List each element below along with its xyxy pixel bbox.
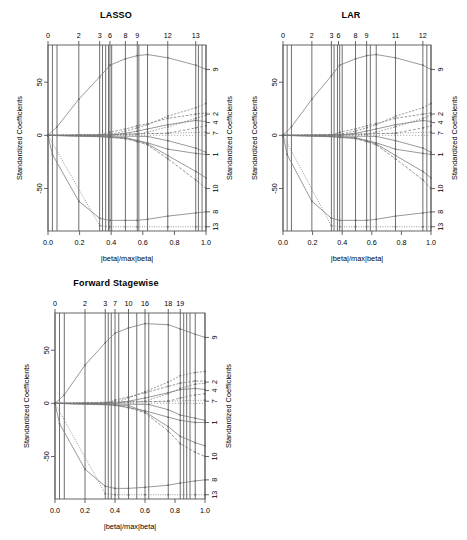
knot-marker [179, 397, 181, 399]
y-tick-label: -50 [35, 183, 44, 193]
knot-marker [125, 226, 127, 228]
knot-marker [194, 333, 196, 335]
knot-marker [422, 120, 424, 122]
coefficient-path [283, 135, 431, 220]
knot-marker [179, 388, 181, 390]
variable-index-label: 10 [436, 184, 445, 192]
knot-marker [167, 118, 169, 120]
knot-marker [128, 494, 130, 496]
panel-lasso: LASSO 0.00.20.40.60.81.0|beta|/max|beta|… [0, 0, 232, 270]
knot-marker [422, 171, 424, 173]
top-tick-label: 10 [125, 299, 133, 308]
knot-marker [339, 226, 341, 228]
knot-marker [144, 323, 146, 325]
knot-marker [422, 147, 424, 149]
x-tick-label: 1.0 [201, 238, 211, 247]
knot-marker [167, 126, 169, 128]
knot-marker [147, 143, 149, 145]
variable-index-label: 4 [210, 389, 219, 393]
variable-index-label: 7 [211, 131, 220, 135]
coefficient-path [48, 135, 206, 178]
knot-marker [375, 143, 377, 145]
coefficient-path [48, 135, 206, 220]
knot-marker [195, 179, 197, 181]
knot-marker [167, 158, 169, 160]
knot-marker [366, 127, 368, 129]
knot-marker [355, 128, 357, 130]
x-tick-label: 0.4 [106, 238, 116, 247]
knot-marker [179, 328, 181, 330]
variable-index-label: 9 [211, 67, 220, 71]
knot-marker [366, 130, 368, 132]
knot-marker [136, 127, 138, 129]
knot-marker [179, 382, 181, 384]
knot-marker [179, 482, 181, 484]
knot-marker [395, 132, 397, 134]
coefficient-path [283, 135, 431, 226]
y-axis-label: Standardized Coefficients [250, 96, 259, 180]
variable-index-label: 8 [211, 210, 220, 214]
knot-marker [375, 131, 377, 133]
knot-marker [104, 342, 106, 344]
variable-index-label: 1 [210, 420, 219, 424]
knot-marker [422, 212, 424, 214]
knot-marker [311, 200, 313, 202]
knot-marker [395, 115, 397, 117]
knot-marker [167, 494, 169, 496]
plot-area-lar: 0.00.20.40.60.81.0|beta|/max|beta|500-50… [235, 0, 467, 270]
knot-marker [109, 226, 111, 228]
x-tick-label: 0.8 [170, 506, 180, 515]
knot-marker [144, 411, 146, 413]
x-tick-label: 0.8 [396, 238, 406, 247]
coefficient-path [48, 126, 206, 136]
knot-marker [167, 386, 169, 388]
knot-marker [195, 127, 197, 129]
knot-marker [64, 394, 66, 396]
knot-marker [78, 98, 80, 100]
y-axis-label: Standardized Coefficients [22, 364, 31, 448]
x-tick-label: 0.0 [43, 238, 53, 247]
coefficient-path [48, 135, 206, 188]
knot-marker [331, 225, 333, 227]
x-tick-label: 0.2 [75, 238, 85, 247]
top-tick-label: 9 [365, 31, 369, 40]
coefficient-path [283, 135, 431, 178]
top-tick-label: 16 [141, 299, 149, 308]
top-tick-label: 12 [164, 31, 172, 40]
knot-marker [167, 115, 169, 117]
top-tick-label: 12 [419, 31, 427, 40]
knot-marker [422, 118, 424, 120]
top-tick-label: 6 [108, 31, 112, 40]
coefficient-path [48, 113, 206, 135]
knot-marker [128, 407, 130, 409]
knot-marker [422, 107, 424, 109]
knot-marker [194, 480, 196, 482]
variable-index-label: 10 [211, 184, 220, 192]
knot-marker [59, 423, 61, 425]
knot-marker [194, 388, 196, 390]
knot-marker [375, 54, 377, 56]
knot-marker [194, 417, 196, 419]
knot-marker [395, 126, 397, 128]
top-tick-label: 9 [135, 31, 139, 40]
knot-marker [355, 220, 357, 222]
knot-marker [167, 215, 169, 217]
knot-marker [311, 98, 313, 100]
knot-marker [114, 488, 116, 490]
knot-marker [109, 64, 111, 66]
knot-marker [144, 494, 146, 496]
coefficient-path [48, 135, 206, 226]
knot-marker [179, 443, 181, 445]
knot-marker [99, 217, 101, 219]
coefficient-path [48, 115, 206, 135]
knot-marker [147, 54, 149, 56]
top-tick-label: 7 [113, 299, 117, 308]
y-tick-label: 50 [42, 346, 51, 354]
knot-marker [167, 430, 169, 432]
knot-marker [395, 148, 397, 150]
top-tick-label: 2 [310, 31, 314, 40]
coefficient-path [55, 403, 205, 446]
top-tick-label: 3 [98, 31, 102, 40]
knot-marker [286, 154, 288, 156]
knot-marker [144, 487, 146, 489]
